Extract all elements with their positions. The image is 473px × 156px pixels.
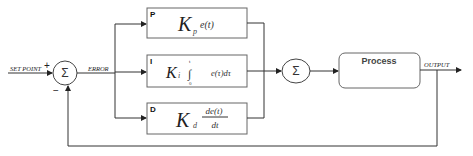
pid-diagram: SET POINT + Σ − ERROR P K p e(t) I K i ∫… [0,0,473,156]
svg-text:e(τ)dτ: e(τ)dτ [211,68,232,78]
svg-text:de(t): de(t) [206,106,223,116]
svg-text:K: K [175,109,191,131]
output-summing-junction: Σ [282,59,310,83]
svg-text:K: K [177,13,193,35]
svg-text:∫: ∫ [187,67,192,81]
derivative-block: D K d de(t) dt [147,103,247,134]
svg-text:i: i [178,71,180,80]
setpoint-label: SET POINT [10,65,42,72]
d-corner-label: D [150,105,156,114]
minus-sign: − [53,85,59,96]
process-block: Process [339,53,420,88]
i-corner-label: I [150,57,152,66]
svg-text:dt: dt [211,120,219,130]
plus-sign: + [44,60,50,71]
error-summing-junction: Σ − [53,61,77,96]
proportional-block: P K p e(t) [147,8,247,38]
svg-text:e(t): e(t) [200,19,215,31]
output-label: OUTPUT [424,61,450,68]
error-label: ERROR [87,65,109,72]
svg-text:Σ: Σ [292,64,299,78]
svg-text:p: p [192,27,197,36]
svg-text:K: K [165,64,178,81]
setpoint-input: SET POINT + [8,60,52,73]
process-label: Process [361,56,396,66]
p-corner-label: P [150,10,156,19]
integral-block: I K i ∫ t 0 e(τ)dτ [147,55,247,87]
sum-symbol: Σ [61,66,68,80]
